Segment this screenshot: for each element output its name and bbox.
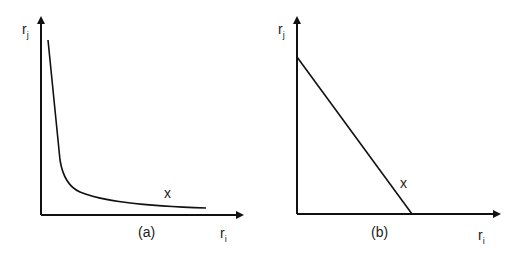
caption-b: (b) — [371, 224, 388, 240]
point-label-a: x — [164, 185, 171, 201]
x-axis-label-a: ri — [220, 225, 227, 244]
caption-a: (a) — [138, 224, 155, 240]
curve-a — [48, 40, 206, 208]
panel-b: rj ri x (b) — [278, 20, 497, 246]
diagram: rj ri x (a) rj ri x (b) — [0, 0, 527, 256]
panel-a: rj ri x (a) — [22, 20, 240, 244]
y-axis-label-a: rj — [22, 21, 29, 40]
y-axis-label-b: rj — [278, 21, 285, 40]
x-axis-label-b: ri — [478, 227, 485, 246]
line-b — [297, 57, 412, 214]
point-label-b: x — [400, 175, 407, 191]
